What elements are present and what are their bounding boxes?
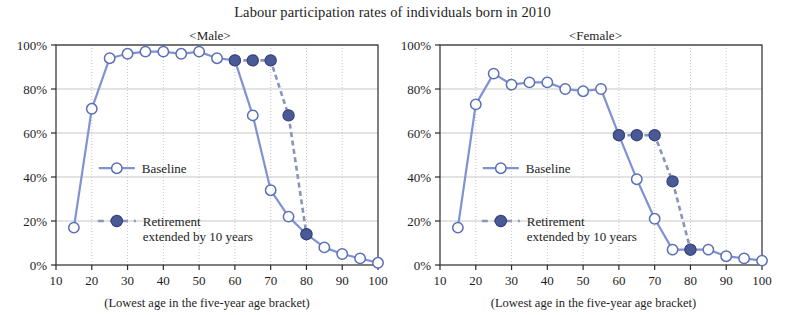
y-tick-label: 80%	[23, 82, 47, 97]
x-tick-label: 90	[720, 273, 733, 288]
data-point-retirement	[247, 55, 258, 66]
data-point-baseline	[248, 110, 258, 120]
data-point-baseline	[542, 77, 552, 87]
data-point-baseline	[649, 214, 659, 224]
data-point-baseline	[757, 255, 767, 265]
y-tick-label: 0%	[414, 258, 432, 273]
data-point-baseline	[194, 46, 204, 56]
data-point-baseline	[140, 46, 150, 56]
x-tick-label: 20	[469, 273, 482, 288]
x-tick-label: 100	[368, 273, 388, 288]
x-tick-label: 60	[228, 273, 241, 288]
y-tick-label: 60%	[407, 126, 431, 141]
legend-label-retirement-line2: extended by 10 years	[143, 229, 253, 244]
y-tick-label: 20%	[23, 214, 47, 229]
data-point-baseline	[453, 222, 463, 232]
x-tick-label: 20	[85, 273, 98, 288]
legend-swatch-retirement-marker	[111, 215, 122, 226]
data-point-baseline	[158, 46, 168, 56]
x-tick-label: 10	[434, 273, 447, 288]
data-point-retirement	[265, 55, 276, 66]
data-point-baseline	[560, 84, 570, 94]
x-tick-label: 50	[193, 273, 206, 288]
data-point-baseline	[104, 53, 114, 63]
x-tick-label: 40	[157, 273, 170, 288]
legend-label-baseline: Baseline	[142, 161, 187, 176]
figure-root: Labour participation rates of individual…	[0, 0, 785, 315]
chart-panel-female: <Female> 0%20%40%60%80%100%1020304050607…	[392, 28, 785, 313]
x-tick-label: 70	[648, 273, 661, 288]
axis-caption-female: (Lowest age in the five-year age bracket…	[392, 296, 785, 311]
data-point-baseline	[373, 258, 383, 268]
data-point-baseline	[212, 53, 222, 63]
data-point-baseline	[87, 104, 97, 114]
x-tick-label: 10	[50, 273, 63, 288]
data-point-baseline	[122, 49, 132, 59]
x-tick-label: 30	[505, 273, 518, 288]
x-tick-label: 40	[541, 273, 554, 288]
data-point-baseline	[703, 244, 713, 254]
data-point-baseline	[739, 253, 749, 263]
data-point-baseline	[667, 244, 677, 254]
figure-title: Labour participation rates of individual…	[0, 4, 785, 21]
data-point-retirement	[685, 244, 696, 255]
plot-female: 0%20%40%60%80%100%102030405060708090100B…	[392, 28, 785, 313]
data-point-baseline	[578, 86, 588, 96]
y-tick-label: 40%	[23, 170, 47, 185]
data-point-baseline	[632, 174, 642, 184]
data-point-baseline	[319, 242, 329, 252]
y-tick-label: 0%	[30, 258, 48, 273]
x-tick-label: 50	[577, 273, 590, 288]
data-point-baseline	[488, 68, 498, 78]
data-point-retirement	[667, 176, 678, 187]
x-tick-label: 90	[336, 273, 349, 288]
legend-label-baseline: Baseline	[526, 161, 571, 176]
data-point-baseline	[283, 211, 293, 221]
y-tick-label: 40%	[407, 170, 431, 185]
data-point-baseline	[355, 253, 365, 263]
legend-label-retirement-line2: extended by 10 years	[527, 229, 637, 244]
data-point-baseline	[524, 77, 534, 87]
y-tick-label: 100%	[17, 38, 48, 53]
legend-swatch-baseline-marker	[496, 163, 506, 173]
axis-caption-male: (Lowest age in the five-year age bracket…	[0, 296, 392, 311]
data-point-baseline	[721, 251, 731, 261]
y-tick-label: 60%	[23, 126, 47, 141]
legend-label-retirement-line1: Retirement	[527, 214, 585, 229]
data-point-retirement	[649, 130, 660, 141]
legend-swatch-baseline-marker	[112, 163, 122, 173]
legend-swatch-retirement-marker	[495, 215, 506, 226]
x-tick-label: 60	[612, 273, 625, 288]
x-tick-label: 30	[121, 273, 134, 288]
x-tick-label: 70	[264, 273, 277, 288]
data-point-baseline	[265, 185, 275, 195]
data-point-baseline	[506, 79, 516, 89]
x-tick-label: 80	[300, 273, 313, 288]
data-point-baseline	[596, 84, 606, 94]
data-point-baseline	[337, 249, 347, 259]
legend-label-retirement-line1: Retirement	[143, 214, 201, 229]
x-tick-label: 80	[684, 273, 697, 288]
y-tick-label: 20%	[407, 214, 431, 229]
data-point-baseline	[176, 49, 186, 59]
data-point-baseline	[69, 222, 79, 232]
data-point-baseline	[471, 99, 481, 109]
plot-male: 0%20%40%60%80%100%102030405060708090100B…	[0, 28, 392, 313]
data-point-retirement	[613, 130, 624, 141]
y-tick-label: 80%	[407, 82, 431, 97]
data-point-retirement	[229, 55, 240, 66]
y-tick-label: 100%	[401, 38, 432, 53]
data-point-retirement	[631, 130, 642, 141]
chart-panel-male: <Male> 0%20%40%60%80%100%102030405060708…	[0, 28, 392, 313]
data-point-retirement	[301, 229, 312, 240]
x-tick-label: 100	[752, 273, 772, 288]
data-point-retirement	[283, 110, 294, 121]
